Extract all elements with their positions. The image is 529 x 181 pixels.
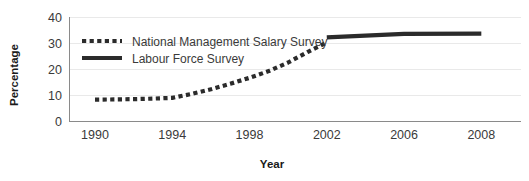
y-axis-title: Percentage (8, 44, 20, 106)
chart-figure: 010203040 199019941998200220062008 Natio… (0, 0, 529, 181)
x-tick-label: 1994 (158, 128, 186, 142)
y-tick-label: 20 (48, 63, 62, 77)
y-tick-label: 0 (55, 115, 62, 129)
x-tick-label: 2008 (467, 128, 495, 142)
legend-label-2: Labour Force Survey (132, 52, 244, 66)
x-tick-label: 2002 (313, 128, 341, 142)
line-chart: 010203040 199019941998200220062008 Natio… (0, 0, 529, 181)
x-tick-label: 1990 (81, 128, 109, 142)
legend-label-1: National Management Salary Survey (132, 35, 327, 49)
y-tick-label: 30 (48, 37, 62, 51)
x-tick-label: 2006 (390, 128, 418, 142)
chart-background (0, 0, 529, 181)
x-axis-title: Year (260, 158, 285, 170)
x-tick-label: 1998 (236, 128, 264, 142)
y-tick-label: 10 (48, 89, 62, 103)
y-tick-label: 40 (48, 11, 62, 25)
